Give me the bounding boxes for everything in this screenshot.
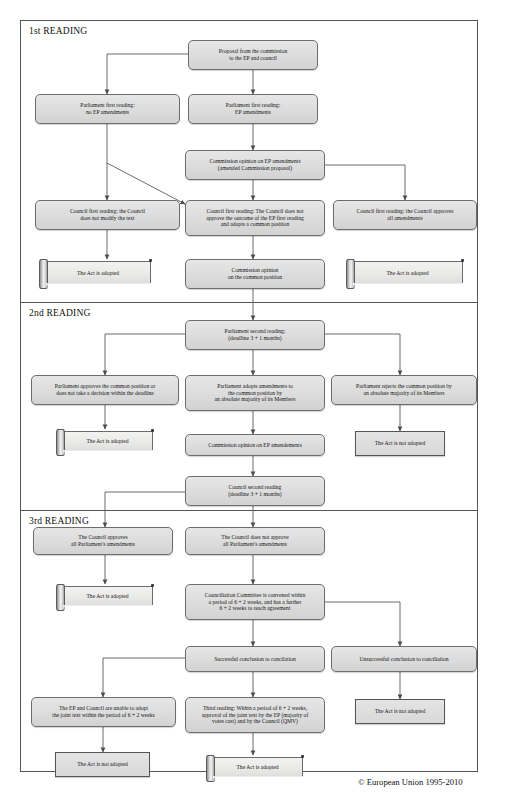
node-council-first-reading-common-position[interactable]: Council first reading: The Council does … bbox=[185, 200, 325, 236]
scroll-tail bbox=[63, 450, 155, 456]
node-act-not-adopted-1[interactable]: The Act is not adopted bbox=[355, 431, 445, 456]
node-conciliation-committee-convened[interactable]: Counciliation Committee is convened with… bbox=[185, 584, 325, 620]
scroll-knob-top-icon bbox=[151, 429, 154, 432]
node-council-first-reading-approves-all[interactable]: Council first reading: the Council appro… bbox=[333, 200, 477, 230]
node-council-first-reading-no-modify[interactable]: Council first reading: the Council does … bbox=[35, 200, 180, 230]
node-act-adopted-2[interactable]: The Act is adopted bbox=[345, 259, 465, 289]
scroll-tail bbox=[213, 776, 305, 782]
node-parliament-first-reading-amendments[interactable]: Parliament first reading: EP amendments bbox=[188, 94, 318, 124]
scroll-knob-top-icon bbox=[461, 259, 464, 262]
scroll-tail bbox=[353, 283, 465, 289]
node-commission-opinion-ep-amendements-2[interactable]: Commission opinion on EP amendements bbox=[185, 434, 325, 456]
node-proposal-from-commission[interactable]: Proposal from the commission to the EP a… bbox=[188, 40, 318, 70]
node-commission-opinion-common-position[interactable]: Commission opinion on the common positio… bbox=[185, 259, 325, 289]
node-act-not-adopted-3[interactable]: The Act is not adopted bbox=[55, 752, 150, 777]
node-parliament-adopts-amendments[interactable]: Parliament adopts amendments to the comm… bbox=[185, 375, 325, 411]
scroll-sheet: The Act is adopted bbox=[212, 757, 303, 777]
scroll-knob-top-icon bbox=[151, 584, 154, 587]
node-parliament-first-reading-no-amendments[interactable]: Parliament first reading: no EP amendmen… bbox=[35, 94, 180, 124]
node-successful-conclusion[interactable]: Successful conclusion to concilation bbox=[185, 646, 325, 672]
scroll-sheet: The Act is adopted bbox=[62, 431, 153, 451]
scroll-sheet: The Act is adopted bbox=[62, 586, 153, 606]
scroll-tail bbox=[63, 605, 155, 611]
node-parliament-rejects-common-position[interactable]: Parliament rejects the common position b… bbox=[331, 375, 477, 405]
node-act-adopted-5[interactable]: The Act is adopted bbox=[205, 755, 305, 782]
node-council-second-reading[interactable]: Council second reading (deadline 3 + 1 m… bbox=[185, 476, 325, 506]
node-act-adopted-4[interactable]: The Act is adopted bbox=[55, 584, 155, 611]
node-ep-council-unable-to-adopt[interactable]: The EP and Council are unable to adopt t… bbox=[31, 697, 176, 727]
node-act-not-adopted-2[interactable]: The Act is not adopted bbox=[355, 699, 445, 724]
flowchart-canvas: 1st READING 2nd READING 3rd READING bbox=[0, 0, 507, 799]
node-act-adopted-1[interactable]: The Act is adopted bbox=[38, 259, 153, 289]
scroll-sheet: The Act is adopted bbox=[45, 261, 151, 284]
scroll-sheet: The Act is adopted bbox=[352, 261, 463, 284]
scroll-knob-top-icon bbox=[149, 259, 152, 262]
copyright-notice: © European Union 1995-2010 bbox=[358, 777, 463, 787]
node-unsuccessful-conclusion[interactable]: Unsuccessful conclusion to conciliation bbox=[331, 646, 477, 672]
node-council-approves-all-amendments[interactable]: The Council approves all Parliament's am… bbox=[33, 527, 173, 555]
scroll-tail bbox=[46, 283, 153, 289]
node-third-reading-approval[interactable]: Third reading: Within a period of 6 + 2 … bbox=[185, 697, 325, 733]
node-commission-opinion-ep-amendments[interactable]: Commission opinion on EP amendments (ame… bbox=[185, 150, 325, 180]
node-act-adopted-3[interactable]: The Act is adopted bbox=[55, 429, 155, 456]
node-parliament-approves-common-position[interactable]: Parliament approves the common position … bbox=[31, 375, 179, 405]
node-parliament-second-reading[interactable]: Parliament second reading: (deadline 3 +… bbox=[185, 320, 325, 350]
node-council-does-not-approve-all-amendments[interactable]: The Council does not approve all Parliam… bbox=[185, 527, 325, 555]
scroll-knob-top-icon bbox=[301, 755, 304, 758]
